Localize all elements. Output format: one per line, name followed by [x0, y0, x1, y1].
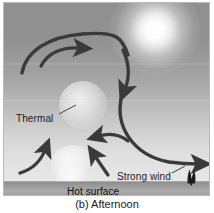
thermal-leader-line: [59, 105, 76, 114]
top-right-turn-arrow: [41, 48, 80, 66]
rising-left-arrow: [22, 33, 128, 73]
arrow-overlay: [4, 3, 210, 196]
figure-caption: (b) Afternoon: [0, 198, 214, 210]
return-flow-arrow: [99, 134, 128, 141]
strong-wind-arrow: [95, 156, 108, 175]
sinking-outflow-arrow: [120, 95, 198, 164]
tree-icon: [187, 170, 195, 186]
strong-wind-label: Strong wind: [117, 171, 171, 182]
figure-afternoon-convection: Thermal Strong wind Hot surface (b) Afte…: [0, 0, 214, 213]
illustration-panel: Thermal Strong wind Hot surface: [3, 2, 210, 196]
strong-wind-leader-line: [172, 166, 185, 173]
hot-surface-label: Hot surface: [67, 186, 119, 196]
surface-updraft-arrow: [20, 150, 45, 173]
thermal-label: Thermal: [16, 113, 53, 124]
